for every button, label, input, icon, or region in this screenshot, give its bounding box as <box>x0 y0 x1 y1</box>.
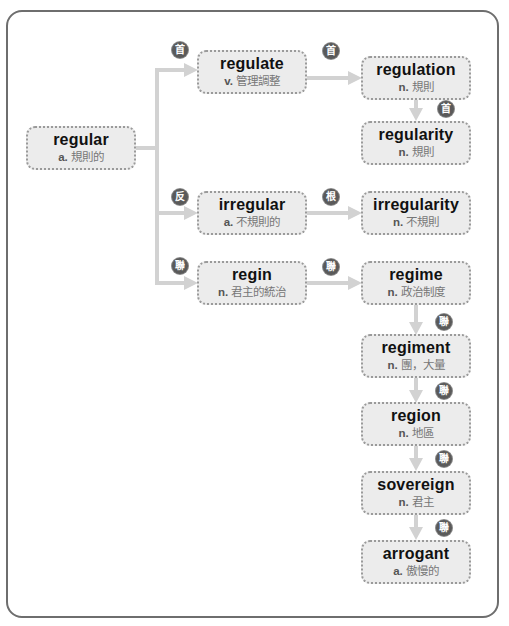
word-regin: regin <box>232 266 272 284</box>
pos-region: n. <box>398 427 408 439</box>
word-arrogant: arrogant <box>383 545 450 563</box>
node-regime: regime n.政治制度 <box>361 261 471 305</box>
arrow-to-regime <box>348 276 362 290</box>
badge-regulate-regulation: 首 <box>323 43 339 59</box>
definition-regime: n.政治制度 <box>387 285 444 300</box>
meaning-arrogant: 傲慢的 <box>406 565 439 577</box>
badge-regin-regime: 聯 <box>323 259 339 275</box>
connector-regime-regiment <box>414 304 418 324</box>
pos-irregular: a. <box>224 216 234 228</box>
pos-arrogant: a. <box>393 565 403 577</box>
arrow-to-regulation <box>348 71 362 85</box>
meaning-regularity: 規則 <box>412 146 434 158</box>
meaning-regular: 規則的 <box>71 151 104 163</box>
badge-irregular-irregularity: 根 <box>323 189 339 205</box>
pos-regiment: n. <box>387 359 397 371</box>
node-regularity: regularity n.規則 <box>361 121 471 165</box>
arrow-to-regin <box>184 276 198 290</box>
pos-regularity: n. <box>398 146 408 158</box>
node-sovereign: sovereign n.君主 <box>361 471 471 515</box>
node-regulate: regulate v.管理調整 <box>197 50 307 94</box>
badge-sovereign-arrogant: 聯 <box>436 520 452 536</box>
definition-regular: a.規則的 <box>58 150 104 165</box>
word-irregularity: irregularity <box>373 196 459 214</box>
node-regiment: regiment n.團，大量 <box>361 334 471 378</box>
word-regular: regular <box>53 131 109 149</box>
pos-regime: n. <box>387 286 397 298</box>
definition-arrogant: a.傲慢的 <box>393 564 439 579</box>
definition-regulation: n.規則 <box>398 80 433 95</box>
definition-irregular: a.不規則的 <box>224 215 281 230</box>
node-regin: regin n.君主的統治 <box>197 261 307 305</box>
meaning-regulation: 規則 <box>412 81 434 93</box>
connector-to-irregular <box>155 211 185 215</box>
definition-regularity: n.規則 <box>398 145 433 160</box>
arrow-to-regulate <box>184 63 198 77</box>
badge-region-sovereign: 聯 <box>436 451 452 467</box>
badge-regulation-regularity: 首 <box>438 101 454 117</box>
connector-regulate-regulation <box>307 76 349 80</box>
word-sovereign: sovereign <box>377 476 454 494</box>
diagram-frame <box>6 10 499 618</box>
arrow-to-irregular <box>184 206 198 220</box>
meaning-regiment: 團，大量 <box>401 359 445 371</box>
badge-regular-regulate: 首 <box>172 42 188 58</box>
definition-sovereign: n.君主 <box>398 495 433 510</box>
node-irregularity: irregularity n.不規則 <box>361 191 471 235</box>
meaning-irregularity: 不規則 <box>406 216 439 228</box>
pos-sovereign: n. <box>398 496 408 508</box>
connector-to-regin <box>155 281 185 285</box>
node-irregular: irregular a.不規則的 <box>197 191 307 235</box>
pos-regular: a. <box>58 151 68 163</box>
pos-irregularity: n. <box>393 216 403 228</box>
meaning-irregular: 不規則的 <box>236 216 280 228</box>
arrow-to-irregularity <box>348 206 362 220</box>
word-regulation: regulation <box>376 61 455 79</box>
meaning-regin: 君主的統治 <box>231 286 286 298</box>
arrow-to-sovereign <box>409 458 423 471</box>
connector-to-regulate <box>155 68 185 72</box>
meaning-regulate: 管理調整 <box>236 75 280 87</box>
word-regularity: regularity <box>379 126 454 144</box>
arrow-to-arrogant <box>409 527 423 540</box>
definition-region: n.地區 <box>398 426 433 441</box>
definition-regiment: n.團，大量 <box>387 358 444 373</box>
meaning-regime: 政治制度 <box>401 286 445 298</box>
word-irregular: irregular <box>219 196 286 214</box>
pos-regulate: v. <box>224 75 233 87</box>
node-arrogant: arrogant a.傲慢的 <box>361 540 471 584</box>
node-region: region n.地區 <box>361 402 471 446</box>
definition-irregularity: n.不規則 <box>393 215 439 230</box>
badge-regular-irregular: 反 <box>172 189 188 205</box>
connector-trunk <box>155 68 159 285</box>
word-regulate: regulate <box>220 55 284 73</box>
definition-regulate: v.管理調整 <box>224 74 280 89</box>
meaning-sovereign: 君主 <box>412 496 434 508</box>
word-regime: regime <box>389 266 443 284</box>
pos-regulation: n. <box>398 81 408 93</box>
node-regular: regular a.規則的 <box>26 126 136 170</box>
word-region: region <box>391 407 441 425</box>
badge-regular-regin: 聯 <box>172 258 188 274</box>
arrow-to-regularity <box>409 108 423 121</box>
meaning-region: 地區 <box>412 427 434 439</box>
badge-regiment-region: 聯 <box>436 383 452 399</box>
node-regulation: regulation n.規則 <box>361 56 471 100</box>
pos-regin: n. <box>218 286 228 298</box>
connector-irregular-irregularity <box>307 211 349 215</box>
definition-regin: n.君主的統治 <box>218 285 286 300</box>
connector-regin-regime <box>307 281 349 285</box>
word-regiment: regiment <box>381 339 450 357</box>
badge-regime-regiment: 聯 <box>436 314 452 330</box>
